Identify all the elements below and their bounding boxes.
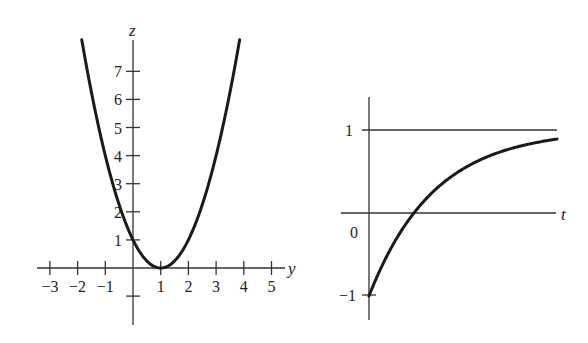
x-tick-label: 4 bbox=[240, 278, 248, 295]
z-axis-label: z bbox=[128, 21, 136, 40]
z-tick-label: 6 bbox=[114, 91, 122, 108]
exponential-plot: t 1 −1 0 bbox=[339, 97, 567, 320]
figure: y z −3−2−112345 1234567 t 1 −1 0 bbox=[0, 0, 588, 343]
t-axis-label: t bbox=[561, 205, 567, 224]
x-tick-label: −2 bbox=[69, 278, 86, 295]
x-tick-label: 3 bbox=[212, 278, 220, 295]
exponential-curve bbox=[369, 139, 557, 296]
z-tick-label: 5 bbox=[114, 120, 122, 137]
origin-label: 0 bbox=[350, 224, 358, 241]
x-tick-label: −3 bbox=[41, 278, 58, 295]
tick-label-1: 1 bbox=[345, 122, 353, 139]
z-tick-label: 1 bbox=[114, 232, 122, 249]
x-tick-label: 1 bbox=[157, 278, 165, 295]
x-tick-label: 5 bbox=[268, 278, 276, 295]
parabola-curve bbox=[82, 40, 240, 268]
parabola-plot: y z −3−2−112345 1234567 bbox=[37, 21, 296, 325]
x-tick-label: −1 bbox=[97, 278, 114, 295]
y-axis-label: y bbox=[286, 259, 296, 278]
tick-label-minus-1: −1 bbox=[339, 287, 356, 304]
x-tick-label: 2 bbox=[184, 278, 192, 295]
z-tick-label: 7 bbox=[114, 63, 122, 80]
z-tick-label: 4 bbox=[114, 148, 122, 165]
